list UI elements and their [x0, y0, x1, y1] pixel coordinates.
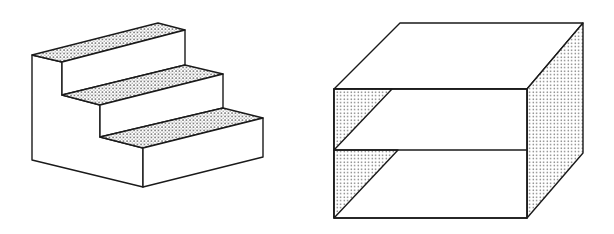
- staircase-figure: [32, 23, 263, 187]
- shelf-box-figure: [334, 23, 583, 218]
- diagram-canvas: [0, 0, 614, 234]
